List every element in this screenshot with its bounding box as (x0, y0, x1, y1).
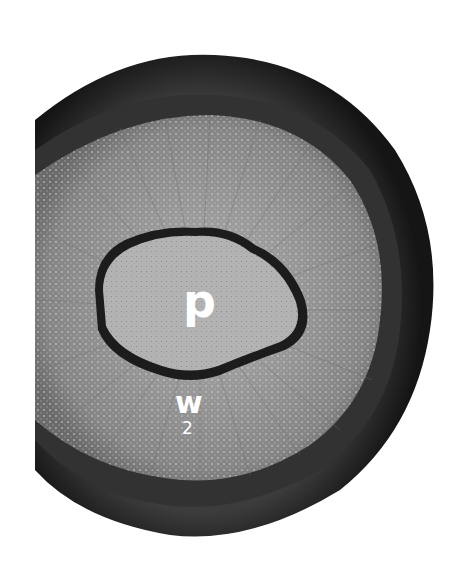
wood-label-subscript: 2 (182, 420, 193, 437)
pith-label: p (183, 278, 216, 324)
wood-label: w (175, 388, 203, 418)
stem-cross-section-micrograph (0, 0, 464, 574)
